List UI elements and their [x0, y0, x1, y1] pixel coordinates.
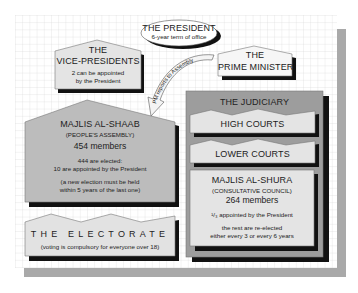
vice-presidents-title-line2: VICE-PRESIDENTS: [55, 56, 141, 66]
majlis-al-shura-members: 264 members: [190, 196, 314, 206]
electorate-title: THE ELECTORATE: [25, 229, 175, 239]
prime-minister-title-line2: PRIME MINISTER: [218, 62, 292, 72]
majlis-al-shaab-title: MAJLIS AL-SHAAB: [25, 119, 175, 129]
president-title: THE PRESIDENT: [141, 23, 217, 33]
majlis-al-shaab-note1-line1: 444 are elected:: [25, 157, 175, 164]
lower-courts-label: LOWER COURTS: [190, 149, 315, 159]
judiciary-title: THE JUDICIARY: [186, 97, 323, 107]
majlis-al-shaab-members: 454 members: [25, 142, 175, 152]
majlis-al-shura-subtitle: (CONSULTATIVE COUNCIL): [190, 187, 314, 194]
majlis-al-shura-note1: ¹/₃ appointed by the President: [190, 211, 314, 218]
prime-minister-title-line1: THE: [218, 50, 292, 60]
vice-presidents-title-line1: THE: [55, 45, 141, 55]
electorate-note: (voting is compulsory for everyone over …: [25, 243, 175, 250]
majlis-al-shura-note2-line1: the rest are re-elected: [190, 224, 314, 231]
president-term: 6-year term of office: [141, 33, 217, 40]
high-courts-label: HIGH COURTS: [190, 119, 315, 129]
majlis-al-shaab-subtitle: (PEOPLE'S ASSEMBLY): [25, 131, 175, 138]
majlis-al-shaab-note1-line2: 10 are appointed by the President: [25, 165, 175, 172]
majlis-al-shaab-note2-line1: (a new election must be held: [25, 178, 175, 185]
vice-presidents-note-line2: by the President: [55, 77, 141, 84]
vice-presidents-note-line1: 2 can be appointed: [55, 69, 141, 76]
majlis-al-shaab-note2-line2: within 5 years of the last one): [25, 186, 175, 193]
majlis-al-shura-title: MAJLIS AL-SHURA: [190, 175, 314, 185]
majlis-al-shura-note2-line2: either every 3 or every 6 years: [190, 232, 314, 239]
